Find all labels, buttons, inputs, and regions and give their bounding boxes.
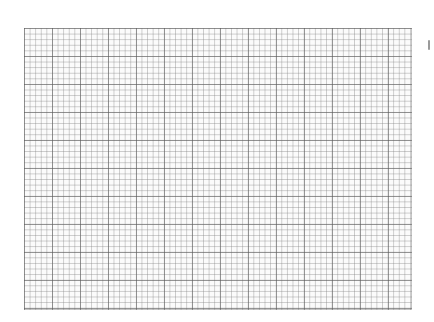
graph-paper-grid <box>24 28 412 310</box>
image-canvas: Blank sheet of graph paper with fine gra… <box>0 0 434 322</box>
edge-mark <box>428 40 430 50</box>
